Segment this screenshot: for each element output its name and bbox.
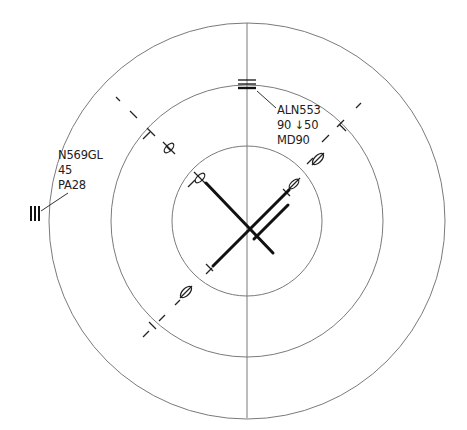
aircraft-type-aln553: MD90 <box>277 133 321 148</box>
altitude-n569gl: 45 <box>58 163 103 178</box>
fix-marker-sw <box>179 285 194 300</box>
fix-marker-nw-inner <box>194 172 207 185</box>
data-block-aln553[interactable]: ALN553 90 ↓50 MD90 <box>277 103 321 148</box>
fix-marker-nw-middle <box>163 142 176 155</box>
traffic-symbol-n569gl[interactable] <box>31 206 39 221</box>
fix-marker-ne-inner <box>288 178 301 191</box>
data-block-n569gl[interactable]: N569GL 45 PA28 <box>58 148 103 193</box>
ne-sw-extended-centerline <box>143 103 361 337</box>
aircraft-type-n569gl: PA28 <box>58 178 103 193</box>
altitude-aln553: 90 ↓50 <box>277 118 321 133</box>
leader-line-n569gl <box>41 193 68 211</box>
nw-se-extended-centerline <box>116 97 195 187</box>
callsign-n569gl: N569GL <box>58 148 103 163</box>
traffic-display-canvas <box>0 0 467 430</box>
leader-line-aln553 <box>257 91 276 108</box>
callsign-aln553: ALN553 <box>277 103 321 118</box>
